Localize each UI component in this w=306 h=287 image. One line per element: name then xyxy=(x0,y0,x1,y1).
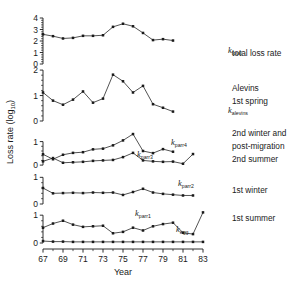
data-point xyxy=(202,241,205,244)
data-point xyxy=(132,91,135,94)
data-point xyxy=(42,187,45,190)
legend: total loss rateAlevins1st spring2nd wint… xyxy=(232,48,287,223)
x-tick-label: 81 xyxy=(178,254,188,264)
data-point xyxy=(72,241,75,244)
y-tick-label: 2 xyxy=(33,65,38,75)
data-point xyxy=(52,157,55,160)
panel-total: 01234 xyxy=(33,13,174,69)
legend-label-parr1: 1st summer xyxy=(232,213,276,223)
data-point xyxy=(102,241,105,244)
data-point xyxy=(172,110,175,113)
data-point xyxy=(182,194,185,197)
data-point xyxy=(92,160,95,163)
data-point xyxy=(122,80,125,83)
data-point xyxy=(112,159,115,162)
y-tick-label: 1 xyxy=(33,137,38,147)
data-point xyxy=(42,226,45,229)
legend-label-parr4_b: post-migration xyxy=(232,141,285,151)
data-point xyxy=(192,233,195,236)
y-tick-label: 4 xyxy=(33,13,38,23)
legend-label-parr3: 2nd summer xyxy=(232,154,278,164)
data-point xyxy=(192,194,195,197)
x-axis: 676971737577798183Year xyxy=(38,249,208,277)
data-point xyxy=(72,37,75,40)
y-tick-label: 0 xyxy=(33,160,38,170)
data-point xyxy=(52,222,55,225)
data-point xyxy=(72,152,75,155)
data-point xyxy=(142,32,145,35)
data-point xyxy=(52,99,55,102)
data-point xyxy=(82,90,85,93)
x-tick-label: 73 xyxy=(98,254,108,264)
x-tick-label: 83 xyxy=(198,254,208,264)
data-point xyxy=(142,85,145,88)
data-point xyxy=(122,231,125,234)
data-point xyxy=(72,223,75,226)
data-point xyxy=(122,241,125,244)
legend-label-total: total loss rate xyxy=(232,48,282,58)
data-point xyxy=(42,240,45,243)
data-point xyxy=(92,225,95,228)
legend-label-parr4_a: 2nd winter and xyxy=(232,128,287,138)
data-point xyxy=(152,39,155,42)
series-line-k_parr2 xyxy=(43,188,193,195)
legend-label-parr2: 1st winter xyxy=(232,185,268,195)
data-point xyxy=(92,148,95,151)
data-point xyxy=(152,103,155,106)
data-point xyxy=(142,150,145,153)
data-point xyxy=(72,192,75,195)
y-tick-label: 3 xyxy=(33,25,38,35)
data-point xyxy=(162,241,165,244)
data-point xyxy=(62,103,65,106)
data-point xyxy=(122,139,125,142)
data-point xyxy=(172,241,175,244)
y-tick-label: 0 xyxy=(33,116,38,126)
panel-alevins: 012 xyxy=(33,65,174,126)
data-point xyxy=(182,241,185,244)
data-point xyxy=(92,35,95,38)
data-point xyxy=(152,160,155,163)
data-point xyxy=(82,161,85,164)
legend-label-alevins_b: 1st spring xyxy=(232,96,268,106)
data-point xyxy=(72,161,75,164)
data-point xyxy=(82,192,85,195)
data-point xyxy=(112,241,115,244)
data-point xyxy=(102,225,105,228)
data-point xyxy=(132,191,135,194)
y-tick-label: 1 xyxy=(33,48,38,58)
data-point xyxy=(172,160,175,163)
legend-label-alevins_a: Alevins xyxy=(232,83,259,93)
data-point xyxy=(92,191,95,194)
data-point xyxy=(102,147,105,150)
data-point xyxy=(112,26,115,29)
data-point xyxy=(122,194,125,197)
data-point xyxy=(162,107,165,110)
data-point xyxy=(82,151,85,154)
data-point xyxy=(192,153,195,156)
data-point xyxy=(62,37,65,40)
data-point xyxy=(192,241,195,244)
data-point xyxy=(52,240,55,243)
x-tick-label: 69 xyxy=(58,254,68,264)
y-tick-label: 1 xyxy=(33,210,38,220)
data-point xyxy=(162,161,165,164)
x-tick-label: 75 xyxy=(118,254,128,264)
data-point xyxy=(162,38,165,41)
data-point xyxy=(52,35,55,38)
k-alevins-label: kalevins xyxy=(228,105,248,116)
data-point xyxy=(72,98,75,101)
figure-container: 01234012010101 676971737577798183Year kt… xyxy=(0,0,306,287)
data-point xyxy=(172,193,175,196)
y-axis-title: Loss rate (log10) xyxy=(5,100,16,164)
y-axis-title-text: Loss rate (log10) xyxy=(5,100,16,164)
x-tick-label: 67 xyxy=(38,254,48,264)
data-point xyxy=(102,192,105,195)
data-point xyxy=(62,192,65,195)
data-point xyxy=(92,241,95,244)
data-point xyxy=(142,229,145,232)
k-parr1-label: kparr1 xyxy=(135,208,151,219)
data-point xyxy=(102,34,105,37)
data-point xyxy=(62,219,65,222)
data-point xyxy=(42,160,45,163)
data-point xyxy=(112,232,115,235)
